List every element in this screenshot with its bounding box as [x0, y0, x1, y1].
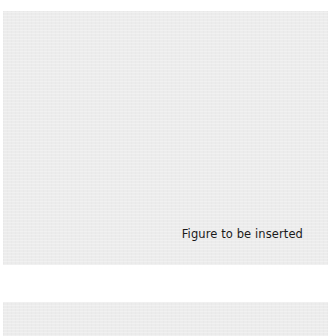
second-figure-placeholder	[3, 302, 328, 336]
figure-placeholder-caption: Figure to be inserted	[182, 227, 303, 241]
